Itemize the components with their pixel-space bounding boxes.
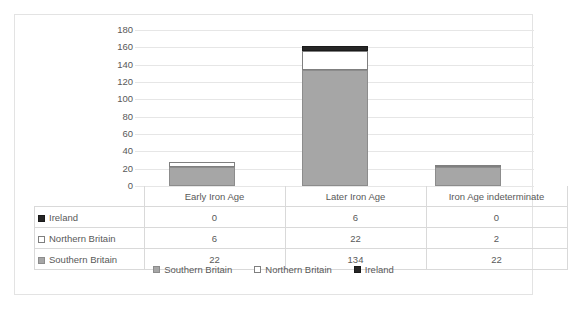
table-row-label: Ireland <box>35 207 145 228</box>
table-column-header: Iron Age indeterminate <box>426 186 567 207</box>
table-column-header: Later Iron Age <box>285 186 426 207</box>
gridline <box>135 30 534 31</box>
legend-swatch-icon <box>254 266 261 273</box>
y-tick-label: 140 <box>99 60 133 70</box>
table-cell-value: 2 <box>426 228 567 249</box>
plot-area <box>135 30 534 186</box>
y-axis: 180160140120100806040200 <box>97 30 133 186</box>
data-table: Early Iron AgeLater Iron AgeIron Age ind… <box>34 186 568 270</box>
y-tick-label: 160 <box>99 42 133 52</box>
table-cell-value: 6 <box>285 207 426 228</box>
bar-segment <box>302 70 368 186</box>
y-tick-label: 40 <box>99 146 133 156</box>
bar-column <box>435 165 501 186</box>
y-tick-label: 100 <box>99 94 133 104</box>
legend-item[interactable]: Northern Britain <box>254 264 332 275</box>
table-header-row: Early Iron AgeLater Iron AgeIron Age ind… <box>35 186 568 207</box>
bar-segment <box>302 51 368 70</box>
legend-label: Southern Britain <box>164 264 232 275</box>
series-swatch-icon <box>38 236 45 243</box>
y-tick-label: 60 <box>99 129 133 139</box>
y-tick-label: 20 <box>99 164 133 174</box>
series-swatch-icon <box>38 215 45 222</box>
bar-column <box>302 46 368 186</box>
y-tick-label: 80 <box>99 112 133 122</box>
legend-label: Ireland <box>365 264 394 275</box>
chart-legend: Southern BritainNorthern BritainIreland <box>15 261 532 277</box>
table-row: Northern Britain6222 <box>35 228 568 249</box>
bar-column <box>169 162 235 186</box>
table-row: Ireland060 <box>35 207 568 228</box>
legend-item[interactable]: Ireland <box>354 264 394 275</box>
table-cell-value: 0 <box>144 207 285 228</box>
data-table-body: Early Iron AgeLater Iron AgeIron Age ind… <box>35 186 568 270</box>
table-column-header: Early Iron Age <box>144 186 285 207</box>
table-cell-value: 22 <box>285 228 426 249</box>
series-name: Northern Britain <box>49 233 116 244</box>
bar-segment <box>435 167 501 186</box>
bar-segment <box>169 167 235 186</box>
table-cell-value: 0 <box>426 207 567 228</box>
series-name: Ireland <box>49 212 78 223</box>
table-row-label: Northern Britain <box>35 228 145 249</box>
chart-container: 180160140120100806040200 Early Iron AgeL… <box>14 14 533 295</box>
y-tick-label: 180 <box>99 25 133 35</box>
table-corner-cell <box>35 186 145 207</box>
legend-swatch-icon <box>354 266 361 273</box>
legend-label: Northern Britain <box>265 264 332 275</box>
legend-item[interactable]: Southern Britain <box>153 264 232 275</box>
y-tick-label: 120 <box>99 77 133 87</box>
legend-swatch-icon <box>153 266 160 273</box>
table-cell-value: 6 <box>144 228 285 249</box>
